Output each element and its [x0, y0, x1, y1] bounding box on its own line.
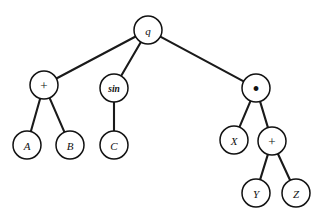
tree-node-X[interactable]: X	[220, 126, 248, 154]
tree-nodes-group: q+sin•ABCX+YZ	[13, 16, 310, 207]
tree-edge-q-times	[160, 37, 243, 82]
node-label-sin: sin	[107, 84, 120, 94]
tree-edge-plusL-B	[50, 98, 65, 132]
tree-node-Z[interactable]: Z	[282, 179, 310, 207]
tree-node-plusR[interactable]: +	[258, 127, 286, 155]
tree-edge-plusR-Y	[260, 154, 268, 179]
node-label-C: C	[110, 140, 118, 152]
tree-edge-plusL-A	[31, 98, 40, 131]
expression-tree-figure: q+sin•ABCX+YZ	[0, 0, 323, 222]
tree-node-q[interactable]: q	[134, 16, 162, 44]
tree-canvas: q+sin•ABCX+YZ	[0, 0, 323, 222]
tree-node-A[interactable]: A	[13, 131, 41, 159]
tree-node-sin[interactable]: sin	[100, 74, 128, 102]
tree-node-C[interactable]: C	[100, 131, 128, 159]
node-label-plusL: +	[40, 78, 47, 93]
tree-edge-q-sin	[121, 42, 141, 76]
node-label-plusR: +	[268, 134, 275, 149]
node-label-Z: Z	[293, 188, 300, 200]
tree-node-times[interactable]: •	[242, 74, 270, 102]
node-label-B: B	[67, 140, 74, 152]
node-label-q: q	[145, 25, 151, 37]
tree-node-Y[interactable]: Y	[242, 179, 270, 207]
tree-edge-times-X	[239, 101, 250, 127]
tree-edge-plusR-Z	[278, 154, 290, 181]
node-label-A: A	[23, 140, 31, 152]
tree-edge-times-plusR	[260, 101, 268, 127]
node-label-X: X	[230, 135, 239, 147]
tree-node-B[interactable]: B	[56, 131, 84, 159]
tree-node-plusL[interactable]: +	[30, 71, 58, 99]
node-label-times: •	[252, 78, 259, 100]
